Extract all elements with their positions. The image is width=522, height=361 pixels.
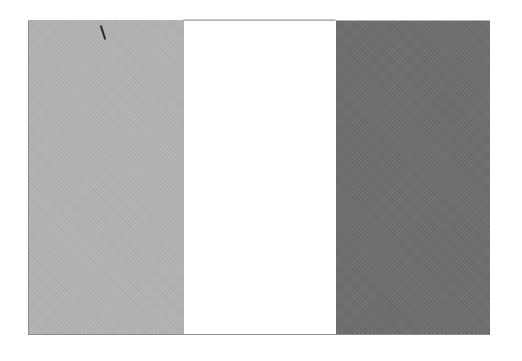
flag-band-middle (184, 21, 336, 334)
tricolor-flag (28, 20, 490, 335)
flag-band-right (336, 21, 490, 334)
flag-top-edge-line (183, 19, 335, 20)
flag-band-left (28, 21, 184, 334)
flag-bottom-edge-line (183, 334, 335, 335)
